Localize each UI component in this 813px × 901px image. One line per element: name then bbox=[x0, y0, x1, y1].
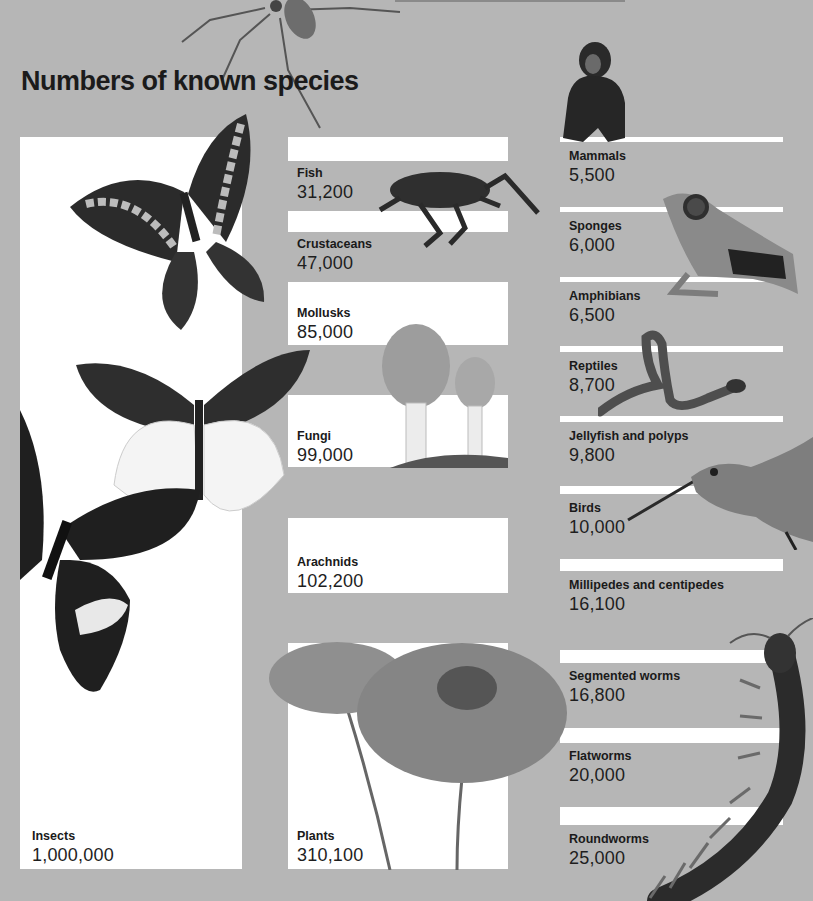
category-value: 31,200 bbox=[297, 183, 353, 201]
page-title: Numbers of known species bbox=[21, 66, 359, 97]
category-value: 99,000 bbox=[297, 446, 353, 464]
category-name: Mollusks bbox=[297, 307, 353, 320]
mollusks-label: Mollusks 85,000 bbox=[297, 307, 353, 341]
category-value: 47,000 bbox=[297, 254, 372, 272]
category-value: 25,000 bbox=[569, 849, 649, 867]
category-name: Reptiles bbox=[569, 360, 618, 373]
category-value: 16,800 bbox=[569, 686, 680, 704]
category-name: Fish bbox=[297, 167, 353, 180]
category-name: Arachnids bbox=[297, 556, 363, 569]
crab-illustration bbox=[370, 168, 540, 248]
category-value: 102,200 bbox=[297, 572, 363, 590]
category-name: Roundworms bbox=[569, 833, 649, 846]
crustaceans-label: Crustaceans 47,000 bbox=[297, 238, 372, 272]
mushroom-illustration bbox=[380, 318, 510, 468]
segmented-worms-label: Segmented worms 16,800 bbox=[569, 670, 680, 704]
category-value: 9,800 bbox=[569, 446, 688, 464]
category-name: Amphibians bbox=[569, 290, 641, 303]
category-name: Segmented worms bbox=[569, 670, 680, 683]
flatworms-label: Flatworms 20,000 bbox=[569, 750, 632, 784]
category-value: 310,100 bbox=[297, 846, 363, 864]
category-value: 10,000 bbox=[569, 518, 625, 536]
category-name: Birds bbox=[569, 502, 625, 515]
amphibians-label: Amphibians 6,500 bbox=[569, 290, 641, 324]
birds-label: Birds 10,000 bbox=[569, 502, 625, 536]
category-name: Plants bbox=[297, 830, 363, 843]
butterfly-illustration-3 bbox=[20, 410, 210, 700]
category-value: 8,700 bbox=[569, 376, 618, 394]
frog-illustration bbox=[658, 184, 803, 310]
insects-label: Insects 1,000,000 bbox=[32, 830, 114, 864]
category-value: 85,000 bbox=[297, 323, 353, 341]
category-value: 20,000 bbox=[569, 766, 632, 784]
category-value: 16,100 bbox=[569, 595, 724, 613]
butterfly-illustration-1 bbox=[66, 112, 271, 332]
jellyfish-label: Jellyfish and polyps 9,800 bbox=[569, 430, 688, 464]
roundworms-label: Roundworms 25,000 bbox=[569, 833, 649, 867]
fish-label: Fish 31,200 bbox=[297, 167, 353, 201]
category-value: 6,000 bbox=[569, 236, 622, 254]
plants-label: Plants 310,100 bbox=[297, 830, 363, 864]
category-name: Jellyfish and polyps bbox=[569, 430, 688, 443]
category-name: Millipedes and centipedes bbox=[569, 579, 724, 592]
arachnids-label: Arachnids 102,200 bbox=[297, 556, 363, 590]
chimpanzee-illustration bbox=[553, 38, 638, 144]
category-name: Flatworms bbox=[569, 750, 632, 763]
millipedes-label: Millipedes and centipedes 16,100 bbox=[569, 579, 724, 613]
mammals-label: Mammals 5,500 bbox=[569, 150, 626, 184]
category-value: 5,500 bbox=[569, 166, 626, 184]
fungi-label: Fungi 99,000 bbox=[297, 430, 353, 464]
category-name: Fungi bbox=[297, 430, 353, 443]
category-name: Sponges bbox=[569, 220, 622, 233]
sponges-label: Sponges 6,000 bbox=[569, 220, 622, 254]
fish-box bbox=[288, 137, 508, 161]
category-name: Crustaceans bbox=[297, 238, 372, 251]
category-name: Mammals bbox=[569, 150, 626, 163]
category-name: Insects bbox=[32, 830, 114, 843]
category-value: 6,500 bbox=[569, 306, 641, 324]
reptiles-label: Reptiles 8,700 bbox=[569, 360, 618, 394]
top-divider bbox=[395, 0, 625, 2]
category-value: 1,000,000 bbox=[32, 846, 114, 864]
millipedes-bar bbox=[560, 559, 783, 571]
snake-illustration bbox=[598, 330, 748, 420]
